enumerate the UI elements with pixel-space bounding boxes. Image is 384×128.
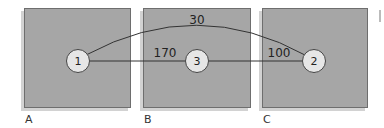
node-2-label: 2 xyxy=(311,55,318,68)
weight-1-2: 30 xyxy=(189,13,204,27)
node-3-label: 3 xyxy=(194,55,201,68)
weight-1-3: 170 xyxy=(154,46,177,60)
graph: 1 3 2 30 170 100 xyxy=(0,0,384,128)
panel-b-label: B xyxy=(144,113,152,126)
node-1-label: 1 xyxy=(75,55,82,68)
panel-c-label: C xyxy=(263,113,271,126)
weight-3-2: 100 xyxy=(268,46,291,60)
panel-a-label: A xyxy=(25,113,33,126)
